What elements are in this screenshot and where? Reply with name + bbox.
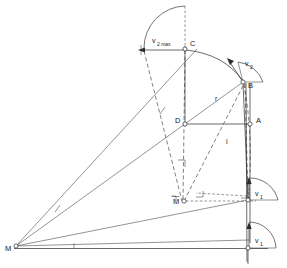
arc-C-to-B — [186, 50, 243, 81]
label-v2-base: v — [245, 60, 249, 67]
node-D — [183, 122, 187, 126]
label-point-B: B — [248, 81, 253, 90]
v2-sector-radius-upper — [238, 62, 243, 82]
node-lower-joint — [246, 246, 250, 250]
label-point-D: D — [175, 116, 181, 125]
v1-upper-arc — [249, 178, 278, 200]
v2max-arrowhead — [138, 47, 145, 52]
node-upper-joint — [246, 198, 250, 202]
right-angle-mark-Mbar — [196, 191, 203, 197]
label-v2-subscript: 2 — [250, 64, 253, 70]
label-length-l: l — [226, 138, 228, 145]
label-v2max-subscript: 2 max — [157, 41, 171, 47]
line-M-to-lower-joint — [16, 240, 249, 246]
mechanism-diagram-svg: v 2 max C v 2 B r A D l M v 1 v — [0, 0, 287, 268]
v2-arrowhead — [227, 58, 234, 65]
node-M — [14, 244, 18, 248]
node-M-bar — [182, 199, 186, 203]
ray-tick-mark-2 — [160, 107, 165, 114]
node-A — [248, 122, 252, 126]
dashed-slant-to-upper-joint — [196, 193, 247, 196]
label-point-M: M — [5, 244, 11, 253]
node-B — [241, 80, 245, 84]
line-M-to-B-radius — [16, 82, 243, 246]
ground-baseline-group — [14, 244, 268, 249]
label-v2max-base: v — [152, 37, 156, 44]
diagram-canvas: v 2 max C v 2 B r A D l M v 1 v — [0, 0, 287, 268]
right-angle-marks-group — [171, 160, 247, 201]
label-v1-lower-base: v — [255, 237, 259, 244]
v1-lower-arrowhead — [246, 222, 251, 229]
v2max-sector-group — [138, 6, 187, 55]
v2-vector-line — [229, 61, 243, 82]
label-point-M-bar: M — [173, 197, 179, 206]
label-point-C: C — [190, 39, 196, 48]
text-labels-group: v 2 max C v 2 B r A D l M v 1 v — [5, 37, 263, 253]
joint-nodes-group — [14, 47, 252, 250]
line-M-to-upper-joint — [16, 200, 248, 246]
label-point-A: A — [256, 116, 261, 125]
dashed-Mbar-to-B — [184, 84, 244, 201]
dashed-construction-group — [144, 6, 256, 201]
trajectory-arc-group — [186, 50, 250, 172]
label-v1-upper-base: v — [255, 190, 259, 197]
label-radius-r: r — [215, 95, 218, 102]
line-M-to-C — [16, 49, 197, 246]
dashed-v2max-to-Mbar — [144, 51, 182, 201]
label-v1-upper-subscript: 1 — [260, 194, 263, 200]
ray-tick-mark-1 — [55, 205, 60, 212]
node-C — [183, 47, 187, 51]
label-v1-lower-subscript: 1 — [260, 241, 263, 247]
radiating-lines-from-M — [16, 49, 249, 246]
right-angle-mark-vertical-left — [178, 160, 185, 167]
